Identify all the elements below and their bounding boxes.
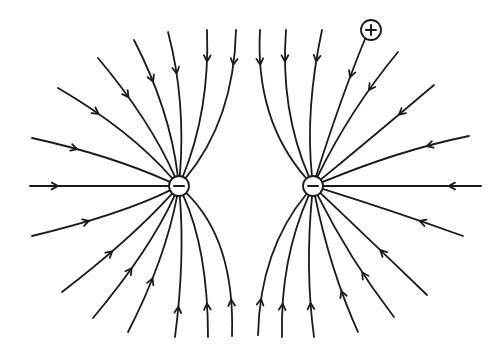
left-field-line xyxy=(175,196,182,337)
left-field-line xyxy=(134,40,178,176)
right-field-line xyxy=(320,193,427,295)
left-field-line xyxy=(32,190,170,236)
left-field-line xyxy=(32,138,170,182)
right-field-line xyxy=(323,189,463,236)
left-field-line xyxy=(58,88,172,178)
left-field-line xyxy=(185,30,236,178)
negative-charge-left xyxy=(169,176,189,196)
right-field-line xyxy=(310,30,322,176)
right-field-line xyxy=(282,195,309,337)
right-field-line xyxy=(260,30,307,178)
left-field-line xyxy=(62,193,172,292)
left-field-line xyxy=(183,30,208,177)
right-field-line xyxy=(309,196,314,337)
left-field-line xyxy=(186,193,232,336)
left-field-line xyxy=(183,195,208,337)
field-line-diagram xyxy=(0,0,501,350)
charges xyxy=(169,20,381,196)
positive-test-charge xyxy=(361,20,381,40)
field-lines-left-charge xyxy=(30,30,237,337)
right-field-line xyxy=(315,196,358,332)
negative-charge-right xyxy=(303,176,323,196)
right-field-line xyxy=(321,85,434,180)
field-lines-right-charge xyxy=(256,30,481,337)
